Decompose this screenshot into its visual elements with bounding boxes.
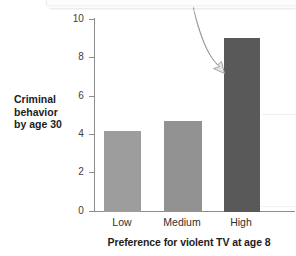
- y-tick-4: [89, 134, 94, 135]
- faint-rule-right: [262, 114, 296, 115]
- bar-high: [223, 37, 261, 213]
- bar-high-fill: [224, 38, 260, 212]
- x-tick-label-high: High: [211, 216, 271, 228]
- y-tick-10: [89, 19, 94, 20]
- bar-medium-fill: [164, 121, 202, 212]
- bar-low: [103, 130, 142, 213]
- bar-medium: [163, 120, 203, 213]
- x-tick-label-low: Low: [92, 216, 152, 228]
- bar-low-fill: [104, 131, 141, 212]
- bar-chart-figure: Criminal behavior by age 30 0 2 4 6 8 10…: [0, 0, 296, 256]
- y-tick-label-6: 6: [62, 91, 84, 101]
- y-tick-6: [89, 96, 94, 97]
- y-tick-label-8: 8: [62, 52, 84, 62]
- y-tick-label-0: 0: [62, 206, 84, 216]
- y-tick-0: [89, 211, 94, 212]
- y-tick-label-2: 2: [62, 167, 84, 177]
- y-axis-title-line-2: behavior: [14, 106, 86, 119]
- x-axis-title: Preference for violent TV at age 8: [82, 236, 296, 248]
- faint-rule-baseline-extension: [258, 206, 296, 207]
- y-tick-label-4: 4: [62, 129, 84, 139]
- y-tick-2: [89, 172, 94, 173]
- top-banner-shade: [46, 5, 296, 8]
- y-tick-label-10: 10: [62, 14, 84, 24]
- x-tick-label-medium: Medium: [151, 216, 213, 228]
- y-axis-line: [94, 18, 95, 212]
- y-tick-8: [89, 57, 94, 58]
